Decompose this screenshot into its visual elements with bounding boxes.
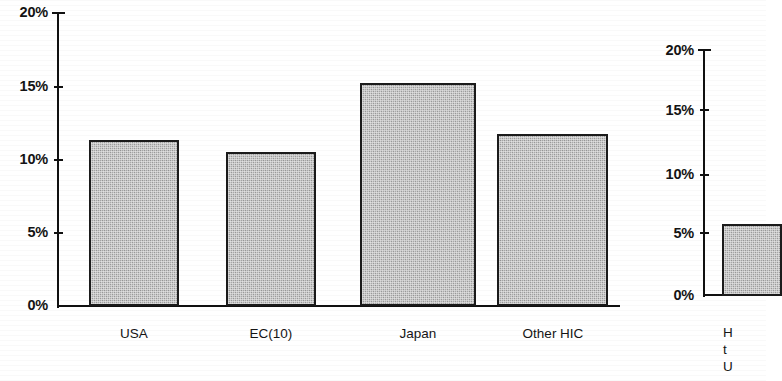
right-ytick-mark-10 bbox=[700, 174, 709, 176]
left-ytick-label-5: 5% bbox=[2, 225, 48, 240]
left-ytick-mark-10 bbox=[54, 159, 63, 161]
right-ytick-label-20: 20% bbox=[638, 43, 694, 58]
right-xtick-label-1-line2: t bbox=[723, 342, 773, 359]
left-ytick-mark-20 bbox=[52, 12, 65, 14]
left-xtick-label-ec10: EC(10) bbox=[221, 326, 321, 343]
left-xtick-label-other-hic: Other HIC bbox=[502, 326, 604, 343]
right-ytick-label-15: 15% bbox=[638, 103, 694, 118]
left-ytick-mark-5 bbox=[54, 232, 63, 234]
right-ytick-mark-20 bbox=[698, 49, 711, 51]
right-xtick-label-1-line1: H bbox=[723, 325, 773, 342]
left-xtick-label-japan: Japan bbox=[368, 326, 468, 343]
left-ytick-label-20: 20% bbox=[2, 5, 48, 20]
right-ytick-mark-15 bbox=[700, 109, 709, 111]
right-ytick-label-0: 0% bbox=[638, 288, 694, 303]
left-bar-japan bbox=[360, 83, 476, 306]
left-xtick-label-usa: USA bbox=[84, 326, 184, 343]
left-ytick-label-10: 10% bbox=[2, 152, 48, 167]
left-bar-other-hic bbox=[497, 134, 608, 306]
right-ytick-mark-5 bbox=[700, 232, 709, 234]
left-ytick-label-15: 15% bbox=[2, 79, 48, 94]
right-ytick-label-5: 5% bbox=[638, 226, 694, 241]
right-ytick-label-10: 10% bbox=[638, 167, 694, 182]
right-xtick-label-1-line3: U bbox=[723, 359, 773, 376]
left-ytick-label-0: 0% bbox=[2, 298, 48, 313]
right-xtick-label-1: H t U bbox=[723, 325, 773, 376]
left-bar-chart: 20% 15% 10% 5% 0% USA EC(10) Japan Other… bbox=[0, 0, 630, 381]
right-bar-chart: 20% 15% 10% 5% 0% H t U bbox=[630, 0, 766, 381]
left-bar-usa bbox=[89, 140, 179, 306]
right-bar-1 bbox=[722, 224, 782, 296]
left-bar-ec10 bbox=[226, 152, 316, 306]
left-ytick-mark-15 bbox=[54, 86, 63, 88]
